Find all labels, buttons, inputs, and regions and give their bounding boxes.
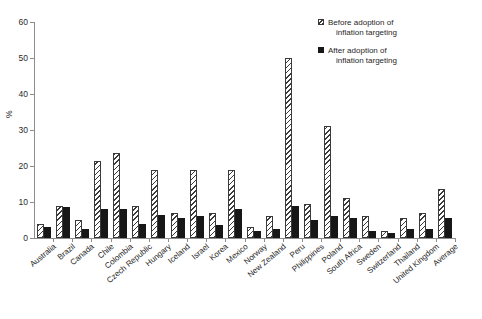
bar-after	[235, 209, 242, 238]
bar-after	[292, 206, 299, 238]
y-axis-tick-label: 10	[0, 197, 28, 207]
y-axis-tick-label: 20	[0, 161, 28, 171]
bar-before	[438, 189, 445, 238]
x-axis-tick	[72, 238, 73, 242]
bar-group	[206, 22, 225, 238]
bar-before	[171, 213, 178, 238]
x-axis-tick	[378, 238, 379, 242]
bar-after	[101, 209, 108, 238]
y-axis-tick	[30, 58, 34, 59]
bar-after	[311, 220, 318, 238]
bar-group	[34, 22, 53, 238]
bar-group	[264, 22, 283, 238]
legend-entry-after: After adoption of inflation targeting	[318, 46, 397, 66]
x-axis-tick	[321, 238, 322, 242]
x-axis-tick	[340, 238, 341, 242]
bar-before	[190, 170, 197, 238]
x-axis-tick	[264, 238, 265, 242]
bar-after	[178, 218, 185, 238]
y-axis-tick	[30, 202, 34, 203]
bar-after	[331, 216, 338, 238]
bar-before	[419, 213, 426, 238]
legend-swatch-before-icon	[318, 19, 324, 25]
x-axis-tick	[302, 238, 303, 242]
x-axis-tick	[225, 238, 226, 242]
bar-group	[168, 22, 187, 238]
x-axis-tick	[168, 238, 169, 242]
bar-after	[63, 207, 70, 238]
x-axis-tick	[130, 238, 131, 242]
bar-before	[113, 153, 120, 238]
bar-after	[273, 229, 280, 238]
y-axis-tick-label: 0	[0, 233, 28, 243]
bar-after	[44, 227, 51, 238]
bar-after	[82, 229, 89, 238]
x-axis-tick	[359, 238, 360, 242]
legend-entry-before: Before adoption of inflation targeting	[318, 18, 397, 38]
bar-after	[254, 231, 261, 238]
legend-swatch-after-icon	[318, 47, 324, 53]
bar-group	[149, 22, 168, 238]
y-axis-tick	[30, 238, 34, 239]
bar-after	[350, 218, 357, 238]
x-axis-tick	[206, 238, 207, 242]
bar-group	[283, 22, 302, 238]
bar-group	[53, 22, 72, 238]
bar-before	[209, 213, 216, 238]
bar-before	[75, 220, 82, 238]
bar-before	[324, 126, 331, 238]
x-axis-tick	[245, 238, 246, 242]
bar-after	[120, 209, 127, 238]
bar-after	[158, 215, 165, 238]
y-axis-tick-label: 60	[0, 17, 28, 27]
y-axis-tick	[30, 130, 34, 131]
y-axis-tick-label: 40	[0, 89, 28, 99]
bar-group	[398, 22, 417, 238]
bar-after	[216, 225, 223, 238]
bar-before	[37, 224, 44, 238]
bar-group	[225, 22, 244, 238]
bar-after	[197, 216, 204, 238]
x-axis-tick	[149, 238, 150, 242]
bar-before	[56, 206, 63, 238]
bar-after	[407, 229, 414, 238]
bar-before	[247, 227, 254, 238]
bar-before	[94, 161, 101, 238]
bar-group	[130, 22, 149, 238]
legend-label-before: Before adoption of inflation targeting	[328, 18, 397, 38]
bar-before	[132, 206, 139, 238]
x-axis-category-label: Israel	[190, 242, 211, 261]
bar-chart: % 0102030405060 AustraliaBrazilCanadaChi…	[0, 0, 482, 319]
bar-before	[381, 231, 388, 238]
bar-before	[304, 204, 311, 238]
bar-before	[343, 198, 350, 238]
x-axis-tick	[455, 238, 456, 242]
bar-group	[111, 22, 130, 238]
bar-group	[72, 22, 91, 238]
y-axis-tick-label: 50	[0, 53, 28, 63]
y-axis-title: %	[4, 110, 14, 118]
chart-legend: Before adoption of inflation targeting A…	[318, 18, 397, 74]
x-axis-tick	[187, 238, 188, 242]
x-axis-tick	[398, 238, 399, 242]
bar-after	[369, 231, 376, 238]
y-axis-tick	[30, 166, 34, 167]
x-axis-tick	[111, 238, 112, 242]
bar-after	[445, 218, 452, 238]
y-axis-tick	[30, 22, 34, 23]
y-axis-tick	[30, 94, 34, 95]
bar-before	[151, 170, 158, 238]
x-axis-tick	[436, 238, 437, 242]
x-axis-category-label: Australia	[28, 242, 58, 269]
bar-after	[139, 224, 146, 238]
bar-before	[400, 218, 407, 238]
bar-before	[228, 170, 235, 238]
bar-before	[362, 216, 369, 238]
bar-group	[417, 22, 436, 238]
bar-after	[426, 229, 433, 238]
bar-group	[187, 22, 206, 238]
bar-group	[245, 22, 264, 238]
bar-before	[285, 58, 292, 238]
x-axis-tick	[53, 238, 54, 242]
y-axis-tick-label: 30	[0, 125, 28, 135]
